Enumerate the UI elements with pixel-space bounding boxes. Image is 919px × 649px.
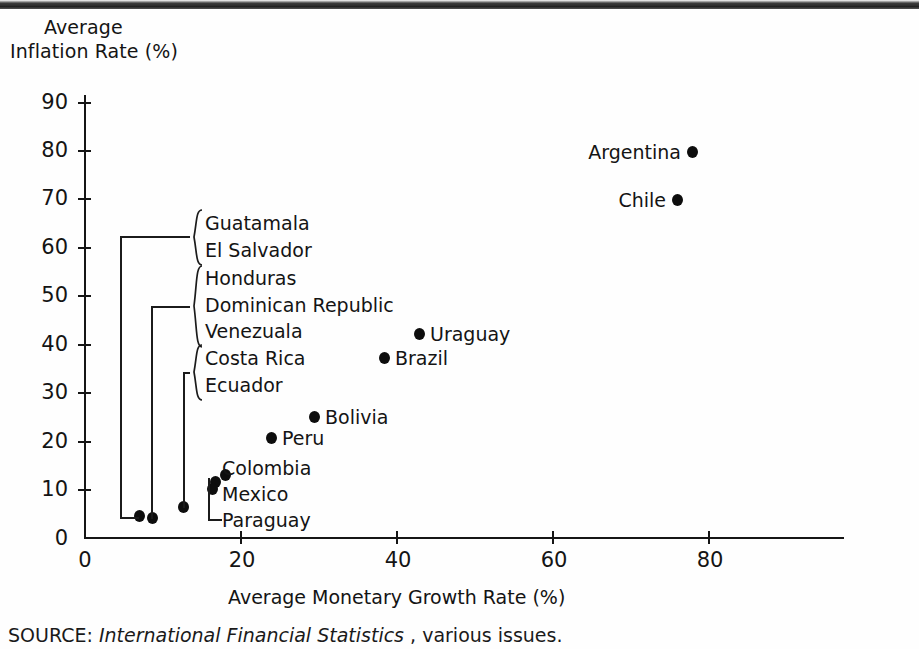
y-tick-label-70: 70 (22, 186, 68, 210)
data-point-bolivia (309, 411, 320, 423)
y-tick-label-50: 50 (22, 283, 68, 307)
x-tick-80 (708, 531, 710, 544)
y-tick-60 (78, 247, 91, 249)
y-tick-30 (78, 392, 91, 394)
y-tick-20 (78, 441, 91, 443)
y-axis-title-line1: Average (44, 16, 123, 38)
x-tick-label-40: 40 (373, 548, 423, 572)
y-tick-label-40: 40 (22, 332, 68, 356)
y-tick-40 (78, 344, 91, 346)
x-axis-title: Average Monetary Growth Rate (%) (228, 586, 565, 608)
y-axis-title-line2: Inflation Rate (%) (10, 40, 178, 62)
bracket-label-venezuala: Venezuala (205, 318, 394, 345)
y-tick-70 (78, 198, 91, 200)
data-label-bolivia: Bolivia (325, 406, 388, 428)
leader-label-paraguay: Paraguay (222, 507, 311, 534)
bracket-label-costa-rica: Costa Rica (205, 345, 306, 372)
y-tick-50 (78, 295, 91, 297)
leader-h-paraguay (208, 519, 222, 521)
data-label-brazil: Brazil (395, 347, 448, 369)
brace-group-3 (188, 344, 204, 402)
leader-v-paraguay (208, 478, 210, 520)
data-label-uraguay: Uraguay (430, 323, 510, 345)
data-label-argentina: Argentina (588, 141, 681, 163)
x-tick-label-60: 60 (529, 548, 579, 572)
data-point-peru (266, 432, 277, 444)
source-note: SOURCE: International Financial Statisti… (8, 624, 563, 646)
x-tick-label-80: 80 (685, 548, 735, 572)
data-label-chile: Chile (618, 189, 666, 211)
leader-h-group-2 (151, 306, 190, 308)
y-tick-label-20: 20 (22, 429, 68, 453)
x-tick-label-20: 20 (217, 548, 267, 572)
bracket-group-1-labels: Guatamala El Salvador (205, 210, 312, 263)
data-point-argentina (687, 146, 698, 158)
data-point-brazil (379, 352, 390, 364)
source-suffix: , various issues. (410, 624, 562, 646)
brace-group-1 (188, 209, 204, 267)
y-tick-90 (78, 102, 91, 104)
source-prefix: SOURCE: (8, 624, 93, 646)
leader-v-group-1 (120, 236, 122, 518)
x-tick-label-0: 0 (60, 548, 110, 572)
bracket-label-guatamala: Guatamala (205, 210, 312, 237)
bracket-label-dominican-republic: Dominican Republic (205, 292, 394, 319)
source-title: International Financial Statistics (99, 624, 404, 646)
data-point-uraguay (414, 328, 425, 340)
brace-group-2 (188, 265, 204, 349)
y-tick-10 (78, 489, 91, 491)
y-tick-label-0: 0 (22, 526, 68, 550)
data-point-guatamala-el-salvador (134, 510, 145, 522)
chart-figure: Average Inflation Rate (%) 90 80 70 60 5… (0, 0, 919, 649)
y-tick-label-30: 30 (22, 380, 68, 404)
x-axis-line (84, 537, 844, 539)
x-tick-60 (552, 531, 554, 544)
bracket-group-3-labels: Costa Rica Ecuador (205, 345, 306, 398)
bracket-label-honduras: Honduras (205, 265, 394, 292)
data-label-peru: Peru (282, 427, 324, 449)
y-tick-label-60: 60 (22, 235, 68, 259)
y-tick-label-10: 10 (22, 477, 68, 501)
leader-h2-group-1 (120, 517, 139, 519)
bracket-label-el-salvador: El Salvador (205, 237, 312, 264)
data-point-chile (672, 194, 683, 206)
leader-label-colombia: Colombia (222, 455, 311, 482)
scan-edge-artifact-inner (0, 6, 919, 9)
leader-v-group-2 (151, 306, 153, 519)
leader-v-group-3 (183, 372, 185, 508)
y-tick-label-80: 80 (22, 138, 68, 162)
y-tick-80 (78, 150, 91, 152)
x-tick-40 (396, 531, 398, 544)
leader-h-group-1 (120, 236, 190, 238)
y-tick-label-90: 90 (22, 90, 68, 114)
leader-label-mexico: Mexico (222, 481, 288, 508)
bracket-label-ecuador: Ecuador (205, 372, 306, 399)
y-axis-line (84, 95, 86, 539)
bracket-group-2-labels: Honduras Dominican Republic Venezuala (205, 265, 394, 345)
